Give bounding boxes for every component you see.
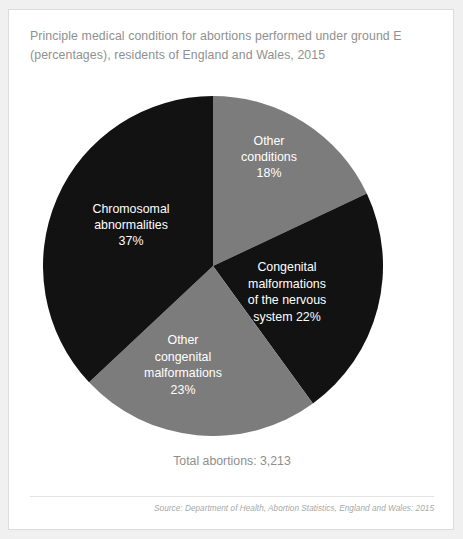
source-label: Source: Department of Health, Abortion S… xyxy=(30,504,434,513)
pie-chart-area: Otherconditions18%Congenitalmalformation… xyxy=(9,10,455,450)
total-abortions-label: Total abortions: 3,213 xyxy=(9,454,455,468)
source-divider xyxy=(30,496,434,497)
pie-chart: Otherconditions18%Congenitalmalformation… xyxy=(43,96,383,436)
chart-card: Principle medical condition for abortion… xyxy=(8,9,454,530)
pie-slice-group xyxy=(43,96,383,436)
